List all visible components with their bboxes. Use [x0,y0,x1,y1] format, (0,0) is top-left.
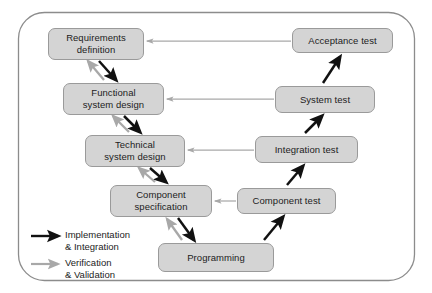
edge-component-test-to-integration-test [287,166,303,185]
node-programming[interactable]: Programming [158,243,274,272]
node-component-test[interactable]: Component test [237,188,336,214]
node-technical-system-design[interactable]: Technical system design [85,135,185,167]
edge-programming-to-component-test [264,217,283,240]
legend-item-implementation: Implementation & Integration [31,229,130,253]
legend-label-implementation: Implementation & Integration [65,229,130,253]
node-requirements-definition[interactable]: Requirements definition [48,28,144,60]
v-model-diagram: Requirements definition Functional syste… [0,0,432,293]
node-requirements-definition-label: Requirements definition [63,32,129,56]
legend-label-verification: Verification & Validation [65,257,115,281]
node-integration-test[interactable]: Integration test [255,136,358,163]
legend-swatch-implementation [31,230,62,244]
edge-system-test-to-acceptance-test [323,57,340,83]
node-functional-system-design[interactable]: Functional system design [63,83,164,115]
node-acceptance-test-label: Acceptance test [305,35,379,47]
node-functional-system-design-label: Functional system design [80,87,147,111]
node-integration-test-label: Integration test [272,144,342,156]
node-component-test-label: Component test [250,195,324,207]
node-programming-label: Programming [184,252,248,264]
node-technical-system-design-label: Technical system design [101,139,168,163]
node-acceptance-test[interactable]: Acceptance test [292,28,393,53]
legend-item-verification: Verification & Validation [31,257,115,281]
node-system-test[interactable]: System test [275,86,375,113]
node-system-test-label: System test [297,94,353,106]
verification-arrows-horizontal [147,41,291,201]
node-component-specification-label: Component specification [132,189,191,213]
node-component-specification[interactable]: Component specification [110,185,212,217]
edge-integration-test-to-system-test [305,116,322,133]
legend-swatch-verification [31,258,62,272]
